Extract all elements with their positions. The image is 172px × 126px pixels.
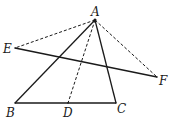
label-A: A (90, 5, 100, 19)
label-E: E (2, 42, 12, 56)
segment-AF (95, 20, 157, 77)
label-D: D (62, 106, 73, 120)
point-E (14, 47, 16, 49)
segments (15, 20, 157, 103)
segment-EF (15, 48, 157, 77)
segment-AE (15, 20, 95, 48)
label-F: F (158, 74, 168, 88)
points (14, 18, 158, 103)
geometry-diagram: A B C D E F (0, 0, 172, 126)
label-B: B (5, 106, 15, 120)
point-F (156, 76, 158, 78)
point-B (14, 102, 16, 104)
point-D (67, 102, 69, 104)
label-C: C (117, 102, 126, 116)
segment-AC (95, 20, 116, 103)
